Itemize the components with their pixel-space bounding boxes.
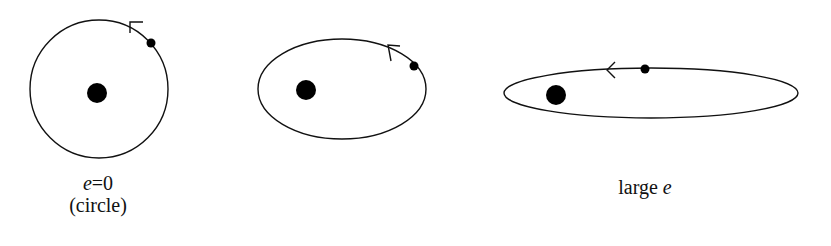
orbiting-body xyxy=(147,39,156,48)
circle-sublabel: (circle) xyxy=(69,194,127,216)
circle-orbit xyxy=(30,20,168,158)
central-body xyxy=(546,85,566,105)
eccentricity-value: =0 xyxy=(92,172,113,194)
eccentricity-symbol: e xyxy=(83,172,92,194)
ellipse-orbit-path xyxy=(258,39,426,139)
direction-arrow-icon xyxy=(607,62,615,78)
large-e-label: large e xyxy=(590,176,700,198)
circle-label: e=0 (circle) xyxy=(48,172,148,216)
moderate-ellipse-orbit xyxy=(258,39,426,139)
orbiting-body xyxy=(410,62,419,71)
large-prefix: large xyxy=(618,176,663,198)
central-body xyxy=(296,80,316,100)
large-ellipse-orbit xyxy=(504,62,798,118)
central-body xyxy=(87,83,107,103)
orbiting-body xyxy=(641,65,650,74)
eccentricity-symbol: e xyxy=(663,176,672,198)
